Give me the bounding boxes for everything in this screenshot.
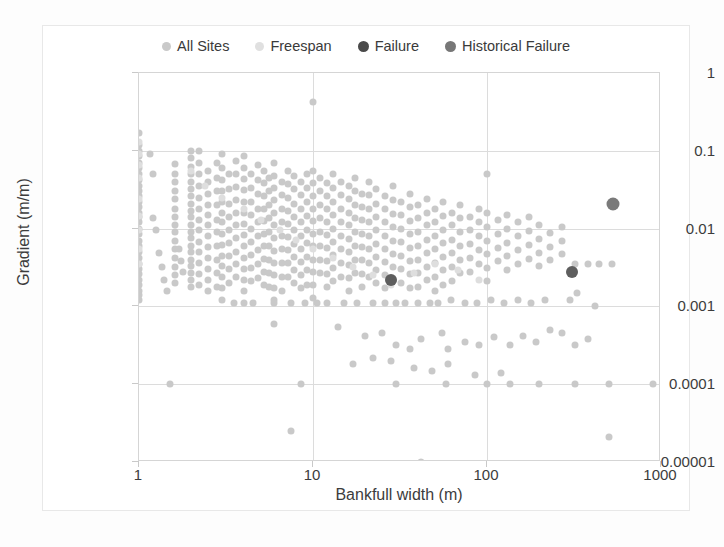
data-point-all-sites: [219, 285, 226, 292]
data-point-all-sites: [414, 202, 421, 209]
data-point-all-sites: [397, 266, 404, 273]
y-tick-label: 0.001: [600, 297, 724, 314]
data-point-all-sites: [418, 336, 425, 343]
data-point-all-sites: [397, 212, 404, 219]
data-point-all-sites: [195, 249, 202, 256]
data-point-all-sites: [297, 192, 304, 199]
data-point-all-sites: [358, 283, 365, 290]
data-point-all-sites: [232, 171, 239, 178]
data-point-all-sites: [240, 276, 247, 283]
data-point-all-sites: [372, 186, 379, 193]
data-point-all-sites: [171, 237, 178, 244]
data-point-all-sites: [232, 273, 239, 280]
data-point-freespan: [293, 236, 300, 243]
data-point-all-sites: [423, 209, 430, 216]
data-point-all-sites: [605, 433, 612, 440]
data-point-all-sites: [188, 214, 195, 221]
data-point-all-sites: [254, 261, 261, 268]
data-point-all-sites: [449, 250, 456, 257]
data-point-all-sites: [382, 300, 389, 307]
data-point-all-sites: [271, 260, 278, 267]
data-point-all-sites: [240, 242, 247, 249]
data-point-all-sites: [397, 225, 404, 232]
data-point-all-sites: [171, 196, 178, 203]
data-point-all-sites: [366, 192, 373, 199]
data-point-all-sites: [449, 236, 456, 243]
data-point-all-sites: [402, 300, 409, 307]
data-point-all-sites: [188, 235, 195, 242]
data-point-failure: [385, 274, 397, 286]
data-point-all-sites: [288, 300, 295, 307]
data-point-all-sites: [329, 171, 336, 178]
data-point-all-sites: [240, 176, 247, 183]
data-point-all-sites: [457, 242, 464, 249]
data-point-all-sites: [149, 171, 156, 178]
data-point-all-sites: [338, 192, 345, 199]
data-point-all-sites: [423, 276, 430, 283]
data-point-all-sites: [219, 165, 226, 172]
data-point-all-sites: [484, 278, 491, 285]
data-point-all-sites: [382, 259, 389, 266]
data-point-all-sites: [278, 287, 285, 294]
data-point-all-sites: [271, 185, 278, 192]
data-point-all-sites: [260, 180, 267, 187]
data-point-all-sites: [285, 194, 292, 201]
data-point-all-sites: [514, 297, 521, 304]
data-point-all-sites: [188, 186, 195, 193]
data-point-all-sites: [219, 209, 226, 216]
gridline-horizontal: [139, 306, 659, 307]
data-point-all-sites: [431, 233, 438, 240]
data-point-all-sites: [366, 233, 373, 240]
data-point-all-sites: [226, 227, 233, 234]
data-point-all-sites: [195, 194, 202, 201]
data-point-all-sites: [559, 223, 566, 230]
data-point-all-sites: [249, 300, 256, 307]
data-point-all-sites: [393, 381, 400, 388]
y-tick-mark: [132, 72, 138, 73]
data-point-all-sites: [406, 258, 413, 265]
data-point-all-sites: [323, 232, 330, 239]
data-point-all-sites: [188, 249, 195, 256]
data-point-all-sites: [494, 230, 501, 237]
data-point-freespan: [240, 205, 247, 212]
data-point-all-sites: [188, 178, 195, 185]
data-point-all-sites: [366, 246, 373, 253]
data-point-all-sites: [487, 297, 494, 304]
y-tick-mark: [132, 150, 138, 151]
data-point-all-sites: [467, 254, 474, 261]
data-point-all-sites: [366, 219, 373, 226]
data-point-all-sites: [366, 205, 373, 212]
data-point-all-sites: [595, 261, 602, 268]
data-point-all-sites: [541, 297, 548, 304]
data-point-all-sites: [329, 278, 336, 285]
data-point-all-sites: [205, 244, 212, 251]
data-point-all-sites: [476, 233, 483, 240]
x-tick-mark: [660, 461, 661, 467]
data-point-all-sites: [362, 332, 369, 339]
data-point-all-sites: [329, 185, 336, 192]
data-point-all-sites: [313, 300, 320, 307]
data-point-freespan: [219, 194, 226, 201]
data-point-all-sites: [240, 266, 247, 273]
data-point-all-sites: [171, 160, 178, 167]
data-point-all-sites: [358, 271, 365, 278]
data-point-all-sites: [291, 279, 298, 286]
data-point-all-sites: [440, 226, 447, 233]
data-point-all-sites: [447, 297, 454, 304]
data-point-all-sites: [188, 147, 195, 154]
data-point-all-sites: [323, 300, 330, 307]
y-tick-label: 1: [600, 64, 724, 81]
data-point-all-sites: [291, 186, 298, 193]
data-point-all-sites: [271, 159, 278, 166]
data-point-all-sites: [310, 193, 317, 200]
data-point-all-sites: [514, 261, 521, 268]
data-point-all-sites: [219, 241, 226, 248]
data-point-all-sites: [240, 153, 247, 160]
data-point-all-sites: [484, 237, 491, 244]
data-point-all-sites: [310, 205, 317, 212]
data-point-all-sites: [345, 235, 352, 242]
data-point-all-sites: [297, 272, 304, 279]
data-point-all-sites: [232, 261, 239, 268]
data-point-all-sites: [382, 245, 389, 252]
data-point-freespan: [329, 254, 336, 261]
